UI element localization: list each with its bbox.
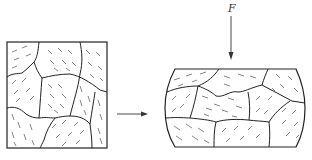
undeformed-specimen (7, 42, 107, 148)
left-grain-hatching (12, 46, 103, 146)
right-grain-hatching (172, 72, 299, 143)
compressed-specimen (165, 69, 305, 147)
transformation-arrow (117, 112, 148, 117)
grain-deformation-diagram: F (0, 0, 312, 160)
force-arrow: F (227, 2, 236, 60)
force-label: F (227, 2, 236, 15)
